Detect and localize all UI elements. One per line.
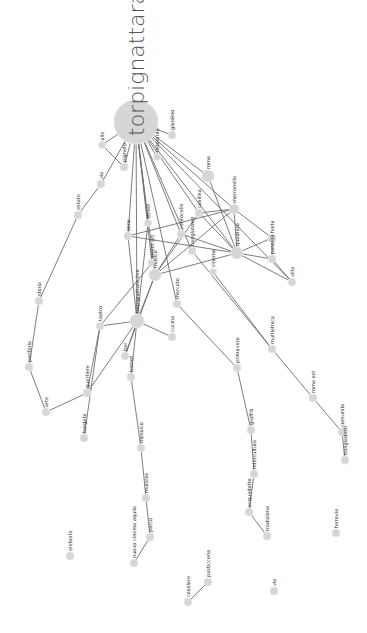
graph-node[interactable] <box>83 389 91 397</box>
node-label: musica <box>152 250 158 268</box>
graph-node[interactable] <box>195 209 203 217</box>
graph-node[interactable] <box>288 278 296 286</box>
node-label: alle <box>99 132 105 141</box>
node-label: quartiere <box>84 365 91 388</box>
graph-node[interactable] <box>130 559 138 567</box>
graph-node[interactable] <box>74 211 82 219</box>
graph-node[interactable] <box>202 170 214 182</box>
graph-node[interactable] <box>245 508 253 516</box>
node-label: elefante <box>67 530 73 551</box>
graph-node[interactable] <box>309 394 317 402</box>
node-label: teatro <box>97 306 103 321</box>
graph-node[interactable] <box>173 300 181 308</box>
graph-node[interactable] <box>168 333 176 341</box>
network-graph[interactable]: torpignattaragiardinoallepignetoristoran… <box>0 0 367 633</box>
graph-node[interactable] <box>204 578 212 586</box>
graph-node[interactable] <box>233 364 241 372</box>
graph-node[interactable] <box>130 314 144 328</box>
graph-node[interactable] <box>146 533 154 541</box>
node-label: estate <box>75 194 81 210</box>
graph-node[interactable] <box>35 297 43 305</box>
node-label: quadraro <box>234 223 241 246</box>
node-label: storia <box>36 282 42 296</box>
graph-node[interactable] <box>184 598 192 606</box>
graph-node[interactable] <box>120 163 128 171</box>
graph-node[interactable] <box>66 552 74 560</box>
node-label: roma est <box>310 371 316 393</box>
graph-node[interactable] <box>25 363 33 371</box>
node-label: centocelle <box>178 203 184 229</box>
node-label: banglatown <box>189 217 196 246</box>
graph-node[interactable] <box>247 426 255 434</box>
graph-node[interactable] <box>268 345 276 353</box>
graph-node[interactable] <box>97 180 105 188</box>
node-label: torpignattara live <box>134 269 141 313</box>
node-label: graffiti <box>248 409 255 425</box>
node-label: arte <box>43 397 49 407</box>
node-label: acquedotto <box>246 479 253 507</box>
node-label: ferrovia <box>333 509 339 528</box>
graph-node[interactable] <box>270 587 278 595</box>
graph-node[interactable] <box>145 220 152 227</box>
node-label: comunita <box>339 404 345 427</box>
node-label: parco <box>147 518 154 532</box>
node-label: pigneto <box>121 143 128 162</box>
node-label: casilina <box>196 189 202 208</box>
graph-edge <box>177 304 237 368</box>
graph-node[interactable] <box>210 269 217 276</box>
graph-node[interactable] <box>137 444 145 452</box>
graph-node[interactable] <box>96 322 104 330</box>
graph-node[interactable] <box>229 204 239 214</box>
graph-node[interactable] <box>263 532 271 540</box>
main-node-label: torpignattara <box>124 0 149 136</box>
graph-edge <box>78 184 101 215</box>
node-label: giardino <box>169 110 176 130</box>
node-label: mosaico <box>138 422 144 443</box>
node-label: bar <box>122 342 128 351</box>
graph-node[interactable] <box>127 373 135 381</box>
graph-node[interactable] <box>268 255 276 263</box>
node-label: via <box>271 579 277 586</box>
labels-layer: torpignattaragiardinoallepignetoristoran… <box>26 0 349 597</box>
node-label: pasolini <box>269 235 276 254</box>
graph-node[interactable] <box>177 230 185 238</box>
node-label: murales <box>143 472 149 493</box>
graph-edge <box>128 236 237 253</box>
graph-edge <box>46 393 87 412</box>
graph-node[interactable] <box>168 131 176 139</box>
node-label: cucina <box>169 316 175 332</box>
node-label: pasticceria <box>205 550 212 577</box>
edges-layer <box>29 122 345 602</box>
graph-edge <box>272 349 313 398</box>
node-label: mercato <box>174 278 180 299</box>
node-label: tradizione <box>264 506 270 531</box>
node-label: bangladesh <box>342 426 349 455</box>
node-label: multietnica <box>269 316 275 344</box>
node-label: roma <box>205 156 211 169</box>
graph-node[interactable] <box>332 529 340 537</box>
node-label: borgata <box>81 414 88 433</box>
node-label: primavera <box>234 337 241 363</box>
graph-node[interactable] <box>250 470 258 478</box>
node-label: intercultura <box>251 440 257 469</box>
graph-edge <box>234 209 272 238</box>
graph-edge <box>192 251 272 349</box>
node-label: casolare <box>185 576 191 597</box>
graph-node[interactable] <box>149 269 161 281</box>
node-label: street <box>145 204 151 219</box>
graph-node[interactable] <box>42 408 50 416</box>
graph-edge <box>213 272 272 349</box>
graph-node[interactable] <box>80 434 88 442</box>
graph-edge <box>39 215 78 301</box>
graph-node[interactable] <box>154 154 161 161</box>
graph-node[interactable] <box>99 142 106 149</box>
graph-node[interactable] <box>188 247 196 255</box>
graph-node[interactable] <box>231 247 243 259</box>
graph-node[interactable] <box>124 232 132 240</box>
node-label: ristorante <box>154 128 160 152</box>
graph-node[interactable] <box>341 456 349 464</box>
graph-edge <box>100 263 152 326</box>
nodes-layer <box>25 100 349 606</box>
node-label: cinema <box>210 249 216 267</box>
graph-node[interactable] <box>142 494 150 502</box>
